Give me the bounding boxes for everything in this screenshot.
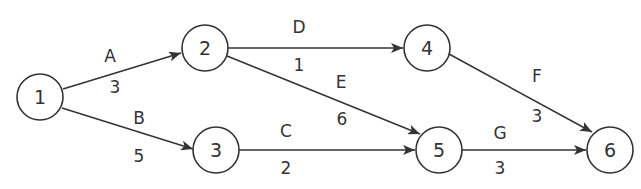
node-3-label: 3 xyxy=(210,139,222,161)
node-6: 6 xyxy=(587,127,633,173)
node-1-label: 1 xyxy=(34,86,46,108)
node-4-label: 4 xyxy=(421,37,433,59)
activity-label-B: B xyxy=(133,108,145,128)
node-2: 2 xyxy=(182,25,228,71)
activity-label-G: G xyxy=(493,123,506,143)
duration-label-D: 1 xyxy=(294,55,305,75)
duration-label-E: 6 xyxy=(337,109,348,129)
node-6-label: 6 xyxy=(604,139,616,161)
activity-label-C: C xyxy=(280,121,292,141)
node-4: 4 xyxy=(404,25,450,71)
node-5: 5 xyxy=(416,127,462,173)
activity-label-D: D xyxy=(292,17,305,37)
network-diagram: A 3 B 5 C 2 D 1 E 6 F 3 G 3 1 2 3 4 5 6 xyxy=(0,0,641,189)
duration-label-F: 3 xyxy=(532,106,543,126)
activity-label-A: A xyxy=(104,46,116,66)
node-3: 3 xyxy=(193,127,239,173)
activity-label-E: E xyxy=(336,72,347,92)
node-1: 1 xyxy=(17,74,63,120)
duration-label-G: 3 xyxy=(495,158,506,178)
edge-B xyxy=(62,108,193,149)
node-5-label: 5 xyxy=(433,139,445,161)
edge-E xyxy=(227,56,420,134)
node-2-label: 2 xyxy=(199,37,211,59)
edge-F xyxy=(449,54,592,132)
duration-label-A: 3 xyxy=(110,77,121,97)
activity-label-F: F xyxy=(532,66,542,86)
edge-A xyxy=(63,53,181,89)
duration-label-B: 5 xyxy=(134,146,145,166)
duration-label-C: 2 xyxy=(281,158,292,178)
